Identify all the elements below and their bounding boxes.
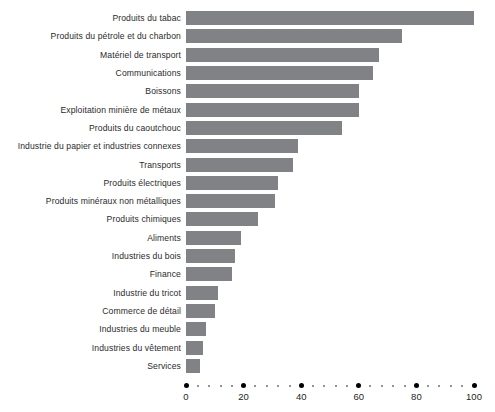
x-axis-minor-tick xyxy=(346,385,348,387)
plot-area: Produits du tabacProduits du pétrole et … xyxy=(0,0,495,412)
bar-row: Produits du tabac xyxy=(0,9,495,27)
bar-row: Communications xyxy=(0,64,495,82)
bar-row: Finance xyxy=(0,265,495,283)
bar-row: Boissons xyxy=(0,82,495,100)
bar-category-label: Produits électriques xyxy=(104,178,181,188)
bar-category-label: Industrie du papier et industries connex… xyxy=(18,141,181,151)
x-axis-major-tick xyxy=(472,383,477,388)
bar-row: Commerce de détail xyxy=(0,302,495,320)
bar-row: Produits du caoutchouc xyxy=(0,119,495,137)
bar-row: Industrie du tricot xyxy=(0,284,495,302)
x-axis-minor-tick xyxy=(231,385,233,387)
x-axis-minor-tick xyxy=(277,385,279,387)
x-axis-minor-tick xyxy=(312,385,314,387)
x-axis-minor-tick xyxy=(289,385,291,387)
bar-chart: Produits du tabacProduits du pétrole et … xyxy=(0,0,495,412)
bar xyxy=(186,103,359,117)
bar xyxy=(186,66,373,80)
x-axis-tick-label: 20 xyxy=(238,391,249,403)
bar-category-label: Produits minéraux non métalliques xyxy=(46,196,181,206)
bar-category-label: Industries du meuble xyxy=(99,324,181,334)
bar-row: Industries du bois xyxy=(0,247,495,265)
x-axis-minor-tick xyxy=(266,385,268,387)
bar xyxy=(186,286,218,300)
x-axis-major-tick xyxy=(299,383,304,388)
bar-category-label: Produits du tabac xyxy=(112,13,181,23)
x-axis-minor-tick xyxy=(461,385,463,387)
bar xyxy=(186,341,203,355)
bar xyxy=(186,322,206,336)
bar xyxy=(186,304,215,318)
bar-row: Produits chimiques xyxy=(0,210,495,228)
x-axis-major-tick xyxy=(184,383,189,388)
bar-row: Services xyxy=(0,357,495,375)
x-axis-major-tick xyxy=(356,383,361,388)
bar-category-label: Produits chimiques xyxy=(107,214,181,224)
bar-row: Produits électriques xyxy=(0,174,495,192)
bar xyxy=(186,249,235,263)
bar xyxy=(186,212,258,226)
x-axis-minor-tick xyxy=(427,385,429,387)
bar-row: Industrie du papier et industries connex… xyxy=(0,137,495,155)
bar xyxy=(186,48,379,62)
x-axis-minor-tick xyxy=(369,385,371,387)
bar xyxy=(186,267,232,281)
bar-row: Produits minéraux non métalliques xyxy=(0,192,495,210)
x-axis-minor-tick xyxy=(381,385,383,387)
bar xyxy=(186,359,200,373)
x-axis-minor-tick xyxy=(208,385,210,387)
bar xyxy=(186,121,342,135)
bar-category-label: Aliments xyxy=(147,233,181,243)
bar-category-label: Industrie du tricot xyxy=(113,288,181,298)
bar xyxy=(186,139,298,153)
x-axis-tick-label: 40 xyxy=(296,391,307,403)
x-axis-tick-label: 100 xyxy=(466,391,482,403)
x-axis-minor-tick xyxy=(254,385,256,387)
bar-row: Aliments xyxy=(0,229,495,247)
bar xyxy=(186,194,275,208)
bar-row: Transports xyxy=(0,155,495,173)
bar-category-label: Industries du bois xyxy=(112,251,181,261)
bar xyxy=(186,11,474,25)
bar-category-label: Commerce de détail xyxy=(102,306,181,316)
x-axis-tick-label: 0 xyxy=(183,391,188,403)
x-axis-major-tick xyxy=(414,383,419,388)
bar-category-label: Produits du pétrole et du charbon xyxy=(51,31,181,41)
x-axis: 020406080100 xyxy=(0,381,495,412)
bar-category-label: Communications xyxy=(116,68,181,78)
x-axis-minor-tick xyxy=(450,385,452,387)
x-axis-minor-tick xyxy=(392,385,394,387)
x-axis-minor-tick xyxy=(197,385,199,387)
bar-category-label: Transports xyxy=(139,160,181,170)
bar xyxy=(186,231,241,245)
bar xyxy=(186,176,278,190)
bar-category-label: Services xyxy=(147,361,181,371)
bar xyxy=(186,84,359,98)
bar-row: Industries du vêtement xyxy=(0,338,495,356)
x-axis-major-tick xyxy=(241,383,246,388)
bar-row: Exploitation minière de métaux xyxy=(0,101,495,119)
bar xyxy=(186,29,402,43)
bar-category-label: Matériel de transport xyxy=(100,50,181,60)
bar xyxy=(186,158,293,172)
bar-category-label: Finance xyxy=(150,269,181,279)
x-axis-tick-label: 60 xyxy=(354,391,365,403)
bar-category-label: Industries du vêtement xyxy=(92,343,181,353)
bar-category-label: Produits du caoutchouc xyxy=(89,123,181,133)
bar-row: Produits du pétrole et du charbon xyxy=(0,27,495,45)
bar-row: Matériel de transport xyxy=(0,46,495,64)
bar-category-label: Boissons xyxy=(145,86,181,96)
x-axis-minor-tick xyxy=(220,385,222,387)
x-axis-tick-label: 80 xyxy=(411,391,422,403)
x-axis-minor-tick xyxy=(335,385,337,387)
x-axis-minor-tick xyxy=(323,385,325,387)
x-axis-minor-tick xyxy=(438,385,440,387)
bar-category-label: Exploitation minière de métaux xyxy=(60,105,181,115)
bar-row: Industries du meuble xyxy=(0,320,495,338)
x-axis-minor-tick xyxy=(404,385,406,387)
